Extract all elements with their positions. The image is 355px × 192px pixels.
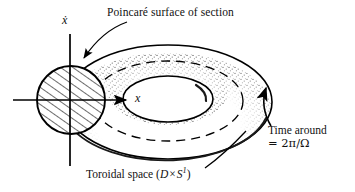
time-around-annotation: Time around = 2π/Ω — [268, 124, 327, 150]
time-around-line-1: Time around — [268, 124, 327, 136]
poincare-section-figure: Poincaré surface of section ẋ x Time aro… — [0, 0, 355, 192]
poincare-section-title: Poincaré surface of section — [107, 6, 234, 19]
caption-prefix: Toroidal space ( — [86, 168, 160, 180]
xdot-axis-label: ẋ — [62, 14, 67, 28]
x-axis-label: x — [135, 92, 140, 106]
caption-suffix: ) — [187, 168, 191, 180]
torus-hole-rim-accent — [196, 85, 206, 101]
toroidal-space-caption: Toroidal space (D×S1) — [86, 166, 190, 181]
torus-diagram-svg — [0, 0, 355, 192]
time-around-line-2: = 2π/Ω — [268, 137, 327, 150]
caption-symbol-D: D — [160, 168, 168, 180]
caption-times-symbol: × — [168, 168, 177, 180]
